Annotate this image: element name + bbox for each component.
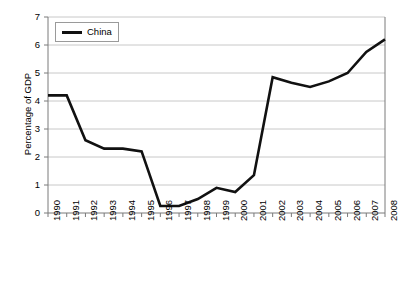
y-tick-label: 2	[26, 152, 40, 162]
y-tick-label: 7	[26, 12, 40, 22]
x-tick-label: 1996	[164, 200, 174, 221]
x-tick-label: 1994	[127, 200, 137, 221]
chart-legend: China	[55, 22, 119, 42]
y-axis-ticks	[44, 17, 48, 213]
chart-canvas	[0, 0, 398, 281]
x-tick-label: 2003	[295, 200, 305, 221]
x-tick-label: 1997	[183, 200, 193, 221]
x-tick-label: 2007	[370, 200, 380, 221]
legend-swatch-china	[62, 31, 82, 34]
y-tick-label: 3	[26, 124, 40, 134]
x-tick-label: 2002	[277, 200, 287, 221]
x-tick-label: 1990	[52, 200, 62, 221]
x-tick-label: 2006	[352, 200, 362, 221]
x-tick-label: 1995	[146, 200, 156, 221]
data-line-china	[48, 39, 385, 206]
y-tick-label: 5	[26, 68, 40, 78]
x-tick-label: 2000	[239, 200, 249, 221]
x-tick-label: 2004	[314, 200, 324, 221]
x-tick-label: 1999	[221, 200, 231, 221]
line-chart: Percentage of GDP 01234567 1990199119921…	[0, 0, 398, 281]
y-tick-label: 4	[26, 96, 40, 106]
y-tick-label: 6	[26, 40, 40, 50]
x-tick-label: 1991	[71, 200, 81, 221]
x-tick-label: 2001	[258, 200, 268, 221]
y-tick-label: 0	[26, 208, 40, 218]
x-tick-label: 2008	[389, 200, 398, 221]
x-tick-label: 1993	[108, 200, 118, 221]
x-tick-label: 2005	[333, 200, 343, 221]
y-tick-label: 1	[26, 180, 40, 190]
gridlines	[48, 17, 385, 185]
legend-label-china: China	[87, 27, 112, 37]
x-tick-label: 1992	[89, 200, 99, 221]
x-tick-label: 1998	[202, 200, 212, 221]
